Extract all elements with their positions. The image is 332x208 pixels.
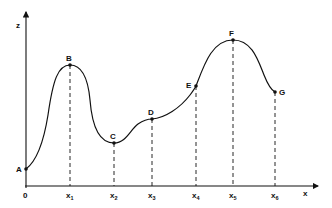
profile-diagram: z x A B C D E F G 0 x1 x2 x3 x4 x5 x6 <box>0 0 332 208</box>
label-f: F <box>229 29 234 38</box>
points <box>24 38 277 171</box>
label-e: E <box>186 81 192 90</box>
label-g: G <box>279 88 285 97</box>
tick-x3: x3 <box>148 191 156 201</box>
x-axis-label: x <box>303 189 308 198</box>
label-b: B <box>66 54 72 63</box>
tick-x6: x6 <box>271 191 279 201</box>
dashed-guides <box>70 40 275 186</box>
tick-x4: x4 <box>192 191 200 201</box>
label-c: C <box>110 132 116 141</box>
point-d <box>150 117 154 121</box>
tick-x5: x5 <box>229 191 237 201</box>
point-c <box>112 141 116 145</box>
point-b <box>68 63 72 67</box>
label-a: A <box>16 165 22 174</box>
point-a <box>24 167 28 171</box>
tick-x1: x1 <box>66 191 74 201</box>
tick-origin: 0 <box>23 191 28 200</box>
tick-x2: x2 <box>110 191 118 201</box>
label-d: D <box>148 108 154 117</box>
point-g <box>273 90 277 94</box>
profile-curve <box>26 40 275 169</box>
point-e <box>194 84 198 88</box>
point-f <box>231 38 235 42</box>
z-axis-label: z <box>16 21 20 30</box>
